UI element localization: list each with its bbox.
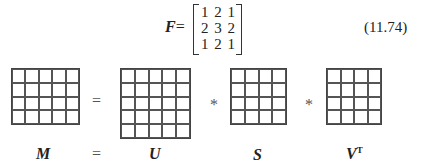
label-m: M: [36, 145, 50, 163]
matrix-row-3: 1 2 1: [201, 36, 236, 53]
matrix-s-grid: [230, 68, 287, 125]
matrix-m-grid: [11, 68, 80, 125]
label-s: S: [253, 146, 262, 164]
transpose-superscript: T: [357, 145, 363, 155]
left-bracket: [193, 4, 199, 55]
equation-number: (11.74): [364, 19, 407, 36]
matrix-vt-grid: [326, 68, 382, 125]
matrix-u-grid: [120, 68, 191, 139]
matrix-f-symbol: F=: [165, 18, 185, 36]
f-label: F: [165, 18, 176, 35]
multiply-operator-1: *: [210, 96, 218, 114]
label-u: U: [149, 145, 161, 163]
label-v: V: [346, 145, 357, 162]
label-vt: VT: [346, 145, 363, 163]
matrix-row-1: 1 2 1: [201, 4, 236, 21]
label-equals: =: [92, 145, 101, 163]
equals-operator: =: [92, 92, 101, 110]
matrix-row-2: 2 3 2: [201, 20, 236, 37]
multiply-operator-2: *: [305, 96, 313, 114]
equals-sign: =: [176, 18, 185, 35]
right-bracket: [236, 4, 242, 55]
